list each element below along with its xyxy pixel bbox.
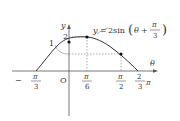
- svg-text:π: π: [145, 79, 151, 87]
- svg-text:π: π: [117, 73, 123, 81]
- origin-label: O: [60, 76, 67, 85]
- svg-text:2: 2: [137, 73, 141, 81]
- svg-text:3: 3: [138, 83, 142, 91]
- svg-text:+: +: [141, 26, 148, 35]
- svg-text:2sin: 2sin: [108, 26, 125, 35]
- y-tick-2: 2: [63, 32, 68, 41]
- point-pi2: [119, 52, 122, 55]
- svg-text:2: 2: [119, 83, 123, 91]
- svg-text:y: y: [92, 26, 98, 35]
- svg-text:3: 3: [153, 32, 157, 40]
- svg-text:−: −: [15, 76, 22, 85]
- svg-text:π: π: [32, 73, 38, 81]
- x-tick-pi6: π 6: [82, 73, 92, 91]
- x-tick-pi2: π 2: [116, 73, 126, 91]
- svg-text:θ: θ: [134, 26, 139, 35]
- x-axis-arrow-icon: [153, 69, 158, 73]
- y-tick-1: 1: [49, 39, 54, 48]
- svg-text:π: π: [151, 21, 157, 29]
- graph-canvas: y θ O 2 1 − π 3 π 6 π 2 2 3 π y = 2sin (…: [0, 0, 180, 121]
- svg-text:π: π: [83, 73, 89, 81]
- svg-text:(: (: [128, 22, 133, 37]
- svg-text:3: 3: [34, 83, 38, 91]
- y-axis-arrow-icon: [67, 24, 71, 29]
- equation-label: y = 2sin ( θ + π 3 ): [92, 21, 167, 40]
- x-tick-2pi3: 2 3 π: [135, 73, 151, 91]
- svg-text:6: 6: [85, 83, 90, 91]
- svg-text:): ): [162, 22, 167, 37]
- point-peak: [85, 35, 88, 38]
- x-axis-label: θ: [150, 59, 155, 68]
- y-axis-label: y: [60, 21, 66, 30]
- svg-text:=: =: [100, 26, 107, 35]
- x-tick-neg-pi3: − π 3: [15, 73, 41, 91]
